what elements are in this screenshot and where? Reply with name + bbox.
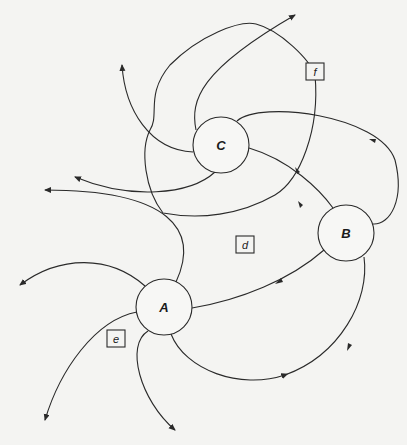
edge-c-up-right <box>195 15 295 130</box>
edge-a-down <box>137 331 175 430</box>
edge-c-left <box>75 172 215 192</box>
edge-a-down-left <box>45 312 137 420</box>
arrowhead-c-loop <box>369 139 376 143</box>
network-diagram: C B A d e f <box>0 0 407 445</box>
region-d-label: d <box>242 239 249 251</box>
node-a-label: A <box>158 300 168 315</box>
node-c: C <box>193 117 249 173</box>
edge-a-left <box>20 263 145 286</box>
node-b: B <box>318 205 374 261</box>
node-a: A <box>136 279 192 335</box>
region-d: d <box>236 236 254 253</box>
diagram-svg: C B A d e f <box>0 0 407 445</box>
edge-c-loop-right <box>237 112 398 224</box>
edge-a-loop-b <box>171 257 365 380</box>
edge-c-to-b <box>249 148 333 208</box>
region-f: f <box>306 63 324 80</box>
edge-c-up-left <box>122 65 193 152</box>
node-c-label: C <box>216 138 226 153</box>
edge-a-to-b <box>192 250 324 308</box>
region-e: e <box>107 330 125 347</box>
node-b-label: B <box>341 226 350 241</box>
arrowhead-f-loop <box>298 201 303 208</box>
region-e-label: e <box>113 333 119 345</box>
arrowhead-a-loop <box>347 343 352 351</box>
